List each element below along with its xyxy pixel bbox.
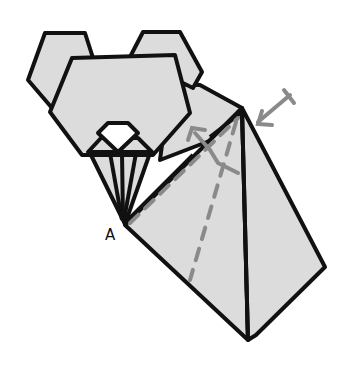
origami-diagram xyxy=(0,0,347,371)
right-flap xyxy=(242,108,325,340)
press-arrow-shaft xyxy=(258,95,290,122)
point-a-label: A xyxy=(105,226,115,244)
chin-crease-2 xyxy=(122,153,123,220)
